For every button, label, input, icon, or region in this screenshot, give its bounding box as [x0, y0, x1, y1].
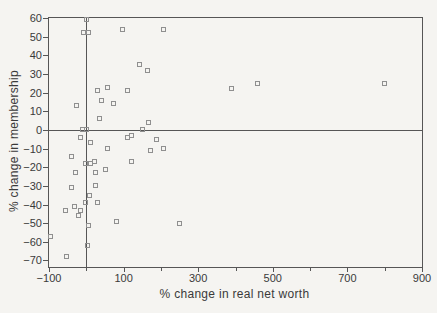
data-point — [125, 88, 130, 93]
x-tick-label: −100 — [27, 272, 71, 284]
x-axis-title: % change in real net worth — [48, 287, 421, 301]
data-point — [83, 200, 88, 205]
y-tick-label: 10 — [2, 105, 42, 117]
data-point — [103, 167, 108, 172]
data-point — [255, 81, 260, 86]
data-point — [99, 98, 104, 103]
data-point — [95, 88, 100, 93]
x-tick-label: 700 — [325, 272, 369, 284]
y-tick — [43, 111, 48, 112]
data-point — [146, 120, 151, 125]
data-point — [88, 140, 93, 145]
y-tick — [43, 37, 48, 38]
y-tick-label: −30 — [2, 180, 42, 192]
y-tick-label: 50 — [2, 31, 42, 43]
x-tick-label: 500 — [251, 272, 295, 284]
data-point — [129, 133, 134, 138]
y-tick — [43, 260, 48, 261]
data-point — [69, 154, 74, 159]
data-point — [87, 193, 92, 198]
data-point — [161, 146, 166, 151]
scatter-plot-figure: % change in membership −1001003005007009… — [0, 0, 437, 313]
data-point — [76, 213, 81, 218]
y-tick-label: 30 — [2, 68, 42, 80]
y-tick-label: 0 — [2, 124, 42, 136]
y-tick-label: 60 — [2, 12, 42, 24]
y-tick — [43, 186, 48, 187]
data-point — [63, 208, 68, 213]
data-point — [229, 86, 234, 91]
data-point — [382, 81, 387, 86]
y-tick-label: −20 — [2, 161, 42, 173]
data-point — [154, 137, 159, 142]
x-minor-tick — [310, 267, 311, 271]
data-point — [105, 85, 110, 90]
y-tick-label: 20 — [2, 87, 42, 99]
x-minor-tick — [86, 267, 87, 271]
data-point — [84, 127, 89, 132]
data-point — [78, 135, 83, 140]
data-point — [93, 170, 98, 175]
data-point — [64, 254, 69, 259]
plot-area: −1001003005007009006050403020100−10−20−3… — [48, 17, 423, 268]
data-point — [137, 62, 142, 67]
y-tick — [43, 55, 48, 56]
data-point — [92, 159, 97, 164]
data-point — [177, 221, 182, 226]
y-tick — [43, 74, 48, 75]
y-tick-label: 40 — [2, 49, 42, 61]
data-point — [111, 101, 116, 106]
y-tick — [43, 149, 48, 150]
y-tick — [43, 18, 48, 19]
data-point — [161, 27, 166, 32]
data-point — [95, 200, 100, 205]
y-tick — [43, 167, 48, 168]
data-point — [97, 116, 102, 121]
y-tick-label: −70 — [2, 254, 42, 266]
data-point — [72, 204, 77, 209]
data-point — [105, 146, 110, 151]
x-tick-label: 100 — [102, 272, 146, 284]
x-tick-label: 300 — [176, 272, 220, 284]
x-minor-tick — [161, 267, 162, 271]
zero-reference-line-horizontal — [49, 130, 422, 131]
data-point — [86, 30, 91, 35]
data-point — [69, 185, 74, 190]
data-point — [129, 159, 134, 164]
data-point — [74, 103, 79, 108]
data-point — [93, 183, 98, 188]
y-tick-label: −60 — [2, 236, 42, 248]
data-point — [48, 234, 53, 239]
y-tick — [43, 93, 48, 94]
data-point — [73, 170, 78, 175]
x-minor-tick — [236, 267, 237, 271]
data-point — [114, 219, 119, 224]
data-point — [120, 27, 125, 32]
data-point — [148, 148, 153, 153]
y-tick — [43, 205, 48, 206]
y-tick-label: −40 — [2, 199, 42, 211]
data-point — [84, 17, 89, 22]
y-tick-label: −50 — [2, 217, 42, 229]
data-point — [86, 223, 91, 228]
y-tick-label: −10 — [2, 143, 42, 155]
y-tick — [43, 223, 48, 224]
data-point — [145, 68, 150, 73]
y-tick — [43, 130, 48, 131]
x-minor-tick — [385, 267, 386, 271]
data-point — [140, 127, 145, 132]
data-point — [85, 243, 90, 248]
x-tick-label: 900 — [400, 272, 437, 284]
y-tick — [43, 242, 48, 243]
